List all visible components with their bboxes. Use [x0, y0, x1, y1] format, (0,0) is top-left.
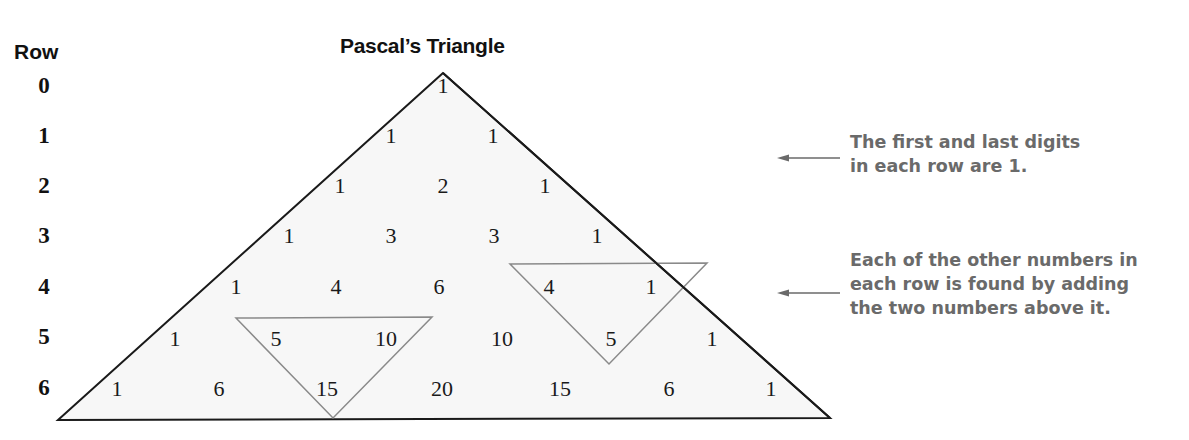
triangle-cell: 1 [216, 274, 256, 300]
triangle-cell: 1 [423, 73, 463, 99]
triangle-cell-highlighted: 1 [631, 274, 671, 300]
triangle-cell: 1 [269, 223, 309, 249]
triangle-cell-highlighted: 4 [529, 274, 569, 300]
triangle-cell: 1 [692, 326, 732, 352]
triangle-cell: 6 [199, 376, 239, 402]
triangle-cell: 1 [473, 123, 513, 149]
triangle-cell: 10 [482, 326, 522, 352]
row-label-4: 4 [34, 274, 54, 300]
row-label-3: 3 [34, 223, 54, 249]
triangle-cell-highlighted: 15 [307, 376, 347, 402]
outer-triangle [58, 73, 830, 420]
triangle-cell-highlighted: 5 [591, 326, 631, 352]
annotation-line: the two numbers above it. [850, 296, 1138, 320]
row-label-6: 6 [34, 375, 54, 401]
triangle-cell: 1 [525, 173, 565, 199]
sum-rule-annotation: Each of the other numbers in each row is… [850, 248, 1138, 320]
annotation-line: The first and last digits [850, 130, 1080, 154]
row-label-5: 5 [34, 324, 54, 350]
triangle-cell: 1 [97, 376, 137, 402]
edge-rule-annotation: The first and last digits in each row ar… [850, 130, 1080, 178]
triangle-cell: 1 [155, 326, 195, 352]
annotation-line: in each row are 1. [850, 154, 1080, 178]
annotation-line: Each of the other numbers in [850, 248, 1138, 272]
triangle-cell: 3 [474, 223, 514, 249]
triangle-cell: 2 [423, 173, 463, 199]
triangle-cell: 1 [371, 123, 411, 149]
pascals-triangle-diagram: Row Pascal’s Triangle 0 1 2 3 4 5 6 1 1 … [0, 0, 1189, 440]
triangle-cell: 6 [419, 274, 459, 300]
row-label-1: 1 [34, 123, 54, 149]
arrow-icon-edge-rule [777, 155, 840, 162]
triangle-cell-highlighted: 10 [366, 326, 406, 352]
triangle-cell: 1 [577, 223, 617, 249]
triangle-cell: 20 [422, 376, 462, 402]
triangle-cell: 3 [371, 223, 411, 249]
row-column-header: Row [14, 40, 58, 64]
diagram-title: Pascal’s Triangle [340, 34, 505, 58]
arrow-icon-sum-rule [777, 290, 840, 297]
triangle-cell: 6 [649, 376, 689, 402]
triangle-cell: 1 [751, 376, 791, 402]
triangle-cell-highlighted: 5 [256, 326, 296, 352]
row-label-2: 2 [34, 173, 54, 199]
row-label-0: 0 [34, 73, 54, 99]
triangle-cell: 1 [320, 173, 360, 199]
annotation-line: each row is found by adding [850, 272, 1138, 296]
diagram-graphics [0, 0, 1189, 440]
triangle-cell: 4 [316, 274, 356, 300]
triangle-cell: 15 [540, 376, 580, 402]
